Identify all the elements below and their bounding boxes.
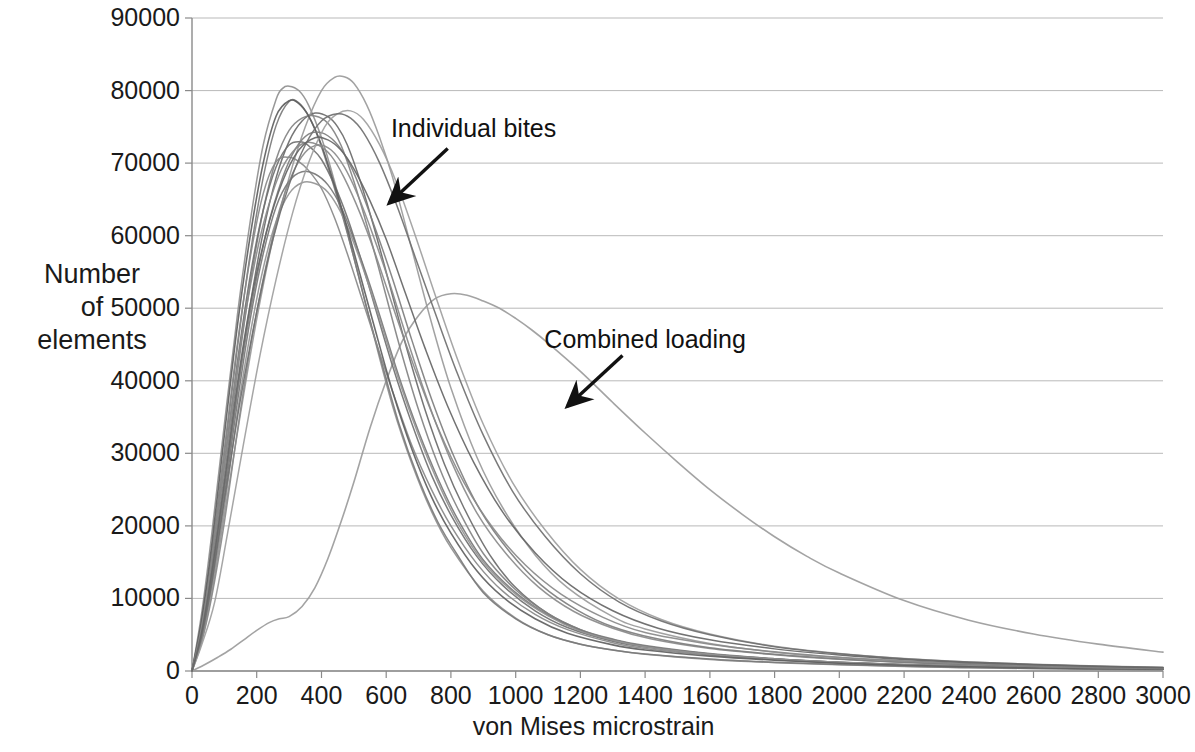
x-axis-tick-label: 3000	[1118, 681, 1195, 710]
data-series-line	[192, 100, 1163, 671]
y-axis-tick-label: 30000	[110, 438, 180, 467]
data-series-line	[192, 132, 1163, 671]
x-axis-title: von Mises microstrain	[0, 712, 1187, 741]
y-axis-tick-label: 70000	[110, 148, 180, 177]
y-axis-tick-label: 90000	[110, 3, 180, 32]
y-axis-tick-label: 40000	[110, 366, 180, 395]
annotation-label: Combined loading	[544, 325, 746, 354]
data-series-line	[192, 137, 1163, 671]
data-series-line	[192, 157, 1163, 671]
y-axis-tick-label: 10000	[110, 583, 180, 612]
data-series-line	[192, 145, 1163, 671]
data-series-line	[192, 182, 1163, 671]
annotation-label: Individual bites	[391, 114, 556, 143]
y-axis-tick-label: 20000	[110, 511, 180, 540]
annotation-arrows	[389, 149, 622, 407]
annotation-arrow	[389, 149, 447, 203]
data-series-line	[192, 142, 1163, 671]
y-axis-title-line-3: elements	[4, 324, 180, 357]
data-series-group	[192, 76, 1163, 671]
y-axis-tick-label: 60000	[110, 221, 180, 250]
y-axis-tick-label: 50000	[110, 293, 180, 322]
data-series-line	[192, 86, 1163, 671]
y-axis-tick-label: 80000	[110, 76, 180, 105]
y-axis-title-line-1: Number	[4, 258, 180, 291]
data-series-line	[192, 100, 1163, 671]
data-series-line	[192, 171, 1163, 671]
data-series-line	[192, 142, 1163, 671]
